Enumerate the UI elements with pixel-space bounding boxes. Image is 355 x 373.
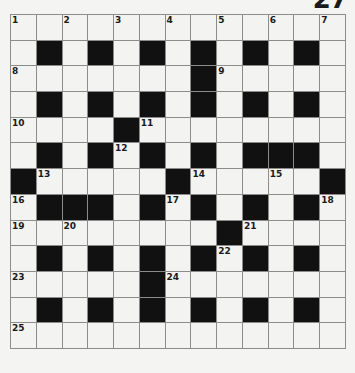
grid-cell[interactable]: 21 xyxy=(243,221,268,246)
grid-cell[interactable] xyxy=(37,323,62,348)
grid-cell[interactable] xyxy=(217,118,242,143)
grid-cell[interactable] xyxy=(140,221,165,246)
grid-cell[interactable]: 16 xyxy=(11,195,36,220)
grid-cell[interactable] xyxy=(114,169,139,194)
grid-cell[interactable] xyxy=(269,221,294,246)
grid-cell[interactable] xyxy=(166,323,191,348)
grid-cell[interactable] xyxy=(269,272,294,297)
grid-cell[interactable] xyxy=(63,92,88,117)
grid-cell[interactable] xyxy=(294,66,319,91)
grid-cell[interactable] xyxy=(269,92,294,117)
grid-cell[interactable]: 6 xyxy=(269,15,294,40)
grid-cell[interactable] xyxy=(243,169,268,194)
grid-cell[interactable] xyxy=(166,298,191,323)
grid-cell[interactable] xyxy=(63,143,88,168)
grid-cell[interactable] xyxy=(63,169,88,194)
grid-cell[interactable] xyxy=(243,272,268,297)
grid-cell[interactable] xyxy=(63,272,88,297)
grid-cell[interactable] xyxy=(37,221,62,246)
grid-cell[interactable]: 12 xyxy=(114,143,139,168)
grid-cell[interactable] xyxy=(217,169,242,194)
grid-cell[interactable] xyxy=(140,169,165,194)
grid-cell[interactable] xyxy=(63,118,88,143)
grid-cell[interactable] xyxy=(269,41,294,66)
grid-cell[interactable] xyxy=(11,143,36,168)
grid-cell[interactable] xyxy=(166,118,191,143)
grid-cell[interactable] xyxy=(269,298,294,323)
grid-cell[interactable] xyxy=(63,323,88,348)
grid-cell[interactable]: 9 xyxy=(217,66,242,91)
grid-cell[interactable] xyxy=(217,298,242,323)
grid-cell[interactable] xyxy=(140,66,165,91)
grid-cell[interactable]: 20 xyxy=(63,221,88,246)
grid-cell[interactable] xyxy=(217,143,242,168)
grid-cell[interactable]: 15 xyxy=(269,169,294,194)
grid-cell[interactable] xyxy=(88,15,113,40)
grid-cell[interactable] xyxy=(114,41,139,66)
grid-cell[interactable] xyxy=(294,15,319,40)
grid-cell[interactable] xyxy=(294,221,319,246)
grid-cell[interactable] xyxy=(63,41,88,66)
grid-cell[interactable] xyxy=(88,272,113,297)
grid-cell[interactable] xyxy=(191,272,216,297)
grid-cell[interactable] xyxy=(269,323,294,348)
grid-cell[interactable] xyxy=(63,298,88,323)
grid-cell[interactable]: 7 xyxy=(320,15,345,40)
grid-cell[interactable] xyxy=(217,195,242,220)
grid-cell[interactable] xyxy=(37,66,62,91)
grid-cell[interactable] xyxy=(88,66,113,91)
grid-cell[interactable] xyxy=(191,323,216,348)
grid-cell[interactable] xyxy=(243,15,268,40)
grid-cell[interactable] xyxy=(320,66,345,91)
grid-cell[interactable] xyxy=(140,15,165,40)
grid-cell[interactable] xyxy=(269,195,294,220)
grid-cell[interactable] xyxy=(11,41,36,66)
grid-cell[interactable] xyxy=(114,195,139,220)
grid-cell[interactable]: 18 xyxy=(320,195,345,220)
grid-cell[interactable]: 14 xyxy=(191,169,216,194)
grid-cell[interactable] xyxy=(140,323,165,348)
grid-cell[interactable] xyxy=(243,66,268,91)
grid-cell[interactable]: 2 xyxy=(63,15,88,40)
grid-cell[interactable] xyxy=(269,118,294,143)
grid-cell[interactable]: 5 xyxy=(217,15,242,40)
grid-cell[interactable] xyxy=(217,272,242,297)
grid-cell[interactable] xyxy=(320,272,345,297)
grid-cell[interactable] xyxy=(114,246,139,271)
grid-cell[interactable] xyxy=(166,143,191,168)
grid-cell[interactable]: 11 xyxy=(140,118,165,143)
grid-cell[interactable] xyxy=(294,118,319,143)
grid-cell[interactable] xyxy=(37,272,62,297)
grid-cell[interactable] xyxy=(191,118,216,143)
grid-cell[interactable] xyxy=(217,41,242,66)
grid-cell[interactable]: 19 xyxy=(11,221,36,246)
grid-cell[interactable]: 23 xyxy=(11,272,36,297)
grid-cell[interactable] xyxy=(11,298,36,323)
grid-cell[interactable] xyxy=(320,221,345,246)
grid-cell[interactable] xyxy=(166,92,191,117)
grid-cell[interactable] xyxy=(166,41,191,66)
grid-cell[interactable] xyxy=(11,246,36,271)
grid-cell[interactable] xyxy=(320,41,345,66)
grid-cell[interactable] xyxy=(166,246,191,271)
grid-cell[interactable] xyxy=(88,323,113,348)
grid-cell[interactable] xyxy=(320,323,345,348)
grid-cell[interactable] xyxy=(88,169,113,194)
grid-cell[interactable] xyxy=(320,298,345,323)
grid-cell[interactable] xyxy=(320,92,345,117)
grid-cell[interactable] xyxy=(294,323,319,348)
grid-cell[interactable] xyxy=(37,118,62,143)
grid-cell[interactable]: 10 xyxy=(11,118,36,143)
grid-cell[interactable]: 24 xyxy=(166,272,191,297)
grid-cell[interactable] xyxy=(114,272,139,297)
grid-cell[interactable]: 17 xyxy=(166,195,191,220)
grid-cell[interactable]: 4 xyxy=(166,15,191,40)
grid-cell[interactable]: 13 xyxy=(37,169,62,194)
grid-cell[interactable] xyxy=(294,272,319,297)
grid-cell[interactable]: 3 xyxy=(114,15,139,40)
grid-cell[interactable] xyxy=(114,66,139,91)
grid-cell[interactable] xyxy=(243,118,268,143)
grid-cell[interactable] xyxy=(114,298,139,323)
grid-cell[interactable] xyxy=(320,118,345,143)
grid-cell[interactable]: 8 xyxy=(11,66,36,91)
